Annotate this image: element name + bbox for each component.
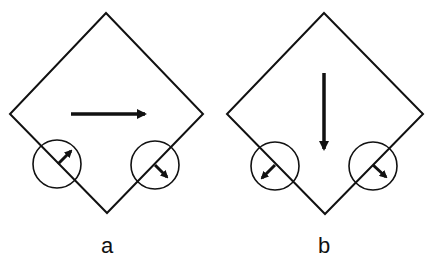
sensor-arrow-down-right-icon <box>155 165 167 177</box>
panel-b: b <box>227 13 423 258</box>
panel-a: a <box>10 13 203 258</box>
diagram-canvas: a b <box>0 0 429 265</box>
sensor-arrow-down-right-icon <box>373 165 386 177</box>
sensor-arrow-up-right-icon <box>58 151 71 164</box>
panel-label-a: a <box>101 233 114 258</box>
sensor-arrow-down-left-icon <box>262 165 275 178</box>
panel-label-b: b <box>318 233 330 258</box>
left-sensor-circle <box>33 140 81 188</box>
